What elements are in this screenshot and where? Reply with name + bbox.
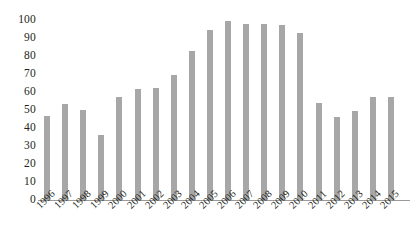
bar-chart-figure: 0102030405060708090100 19961997199819992…	[0, 0, 415, 241]
x-axis: 1996199719981999200020012002200320042005…	[0, 0, 415, 241]
